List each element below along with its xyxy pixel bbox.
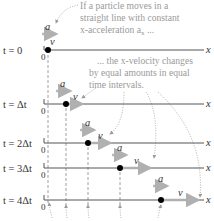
origin-label-2: 0 — [41, 145, 46, 155]
svg-text:by equal amounts in equal: by equal amounts in equal — [89, 67, 190, 78]
svg-text:time intervals.: time intervals. — [89, 79, 144, 90]
velocity-label-3: v — [134, 155, 139, 166]
bottom-pointers — [49, 203, 161, 218]
row-t0 — [42, 34, 204, 53]
origin-label-4: 0 — [41, 202, 46, 212]
time-label-2: t = 2Δt — [3, 138, 32, 149]
x-axis-label-3: x — [205, 162, 211, 173]
svg-text:straight line with constant: straight line with constant — [80, 12, 180, 23]
accel-label-3: a — [117, 142, 122, 153]
accel-label-2: a — [85, 117, 90, 128]
time-label-0: t = 0 — [3, 45, 22, 56]
accel-label-1: a — [60, 78, 65, 89]
row-t3 — [44, 155, 204, 171]
top-annotation: If a particle moves in a straight line w… — [80, 0, 180, 37]
velocity-label-0: v — [50, 36, 55, 47]
velocity-label-2: v — [98, 130, 103, 141]
time-label-3: t = 3Δt — [3, 163, 32, 174]
accel-label-0: a — [45, 21, 50, 32]
svg-text:If a particle moves in a: If a particle moves in a — [80, 0, 169, 11]
x-axis-label-1: x — [205, 98, 211, 109]
x-axis-label-0: x — [205, 44, 211, 55]
origin-label-0: 0 — [41, 52, 46, 62]
x-axis-label-4: x — [205, 194, 211, 205]
velocity-label-4: v — [178, 187, 183, 198]
time-label-1: t = Δt — [3, 99, 27, 110]
time-label-4: t = 4Δt — [3, 195, 32, 206]
svg-text:... the x-velocity changes: ... the x-velocity changes — [97, 55, 193, 66]
svg-text:x-acceleration ax ...: x-acceleration ax ... — [80, 24, 154, 37]
kinematics-diagram: t = 0 t = Δt t = 2Δt t = 3Δt t = 4Δt 0 0… — [0, 0, 214, 221]
row-t1 — [44, 91, 204, 107]
row-t2 — [44, 130, 204, 146]
accel-label-4: a — [158, 173, 163, 184]
velocity-label-1: v — [73, 91, 78, 102]
middle-annotation: ... the x-velocity changes by equal amou… — [89, 55, 193, 90]
x-axis-label-2: x — [205, 137, 211, 148]
origin-label-1: 0 — [41, 106, 46, 116]
origin-label-3: 0 — [41, 170, 46, 180]
